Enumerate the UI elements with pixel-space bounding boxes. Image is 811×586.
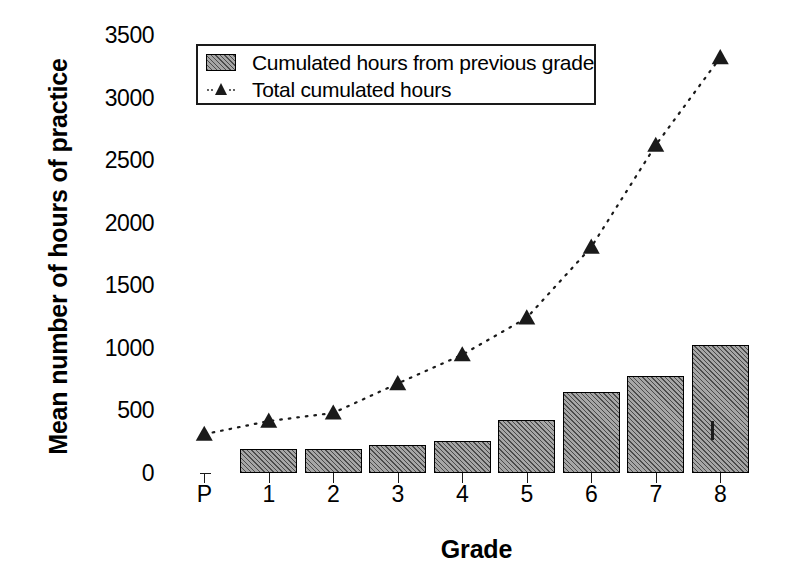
- y-axis-tick-label: 3500: [44, 22, 154, 49]
- x-axis-tick-label: 7: [626, 481, 686, 508]
- bar: [240, 449, 297, 473]
- chart-legend: Cumulated hours from previous grade Tota…: [196, 44, 596, 105]
- x-axis-tick-label: 4: [432, 481, 492, 508]
- y-axis-tick-label: 0: [44, 460, 154, 487]
- legend-item-line-series: Total cumulated hours: [206, 76, 588, 103]
- bar: [563, 392, 620, 473]
- y-axis-tick-label: 2000: [44, 209, 154, 236]
- x-axis-tick-label: P: [174, 481, 234, 508]
- x-axis-tick-label: 6: [561, 481, 621, 508]
- bar: [627, 376, 684, 473]
- bar: [498, 420, 555, 473]
- dotted-triangle-swatch-icon: [206, 81, 236, 98]
- legend-label-line-series: Total cumulated hours: [252, 78, 451, 102]
- x-axis-title: Grade: [168, 535, 785, 564]
- y-axis-tick-label: 3000: [44, 84, 154, 111]
- y-axis-tick-label: 2500: [44, 147, 154, 174]
- bar-artifact-mark: [711, 421, 714, 440]
- y-axis-tick-label: 500: [44, 397, 154, 424]
- bar: [369, 445, 426, 473]
- y-axis-tick-mark: [200, 473, 211, 474]
- x-axis-tick-label: 2: [303, 481, 363, 508]
- x-axis-tick-label: 3: [368, 481, 428, 508]
- legend-item-bar-series: Cumulated hours from previous grade: [206, 49, 588, 76]
- y-axis-tick-labels: 0500100015002000250030003500: [42, 0, 154, 586]
- chart-figure: Mean number of hours of practice 0500100…: [0, 0, 811, 586]
- y-axis-tick-label: 1000: [44, 334, 154, 361]
- y-axis-tick-label: 1500: [44, 272, 154, 299]
- bar: [692, 345, 749, 473]
- bar: [305, 449, 362, 473]
- hatched-bar-swatch-icon: [206, 54, 236, 71]
- x-axis-tick-label: 1: [239, 481, 299, 508]
- x-axis-tick-label: 5: [497, 481, 557, 508]
- legend-label-bar-series: Cumulated hours from previous grade: [252, 51, 594, 75]
- bar: [434, 441, 491, 473]
- x-axis-tick-label: 8: [690, 481, 750, 508]
